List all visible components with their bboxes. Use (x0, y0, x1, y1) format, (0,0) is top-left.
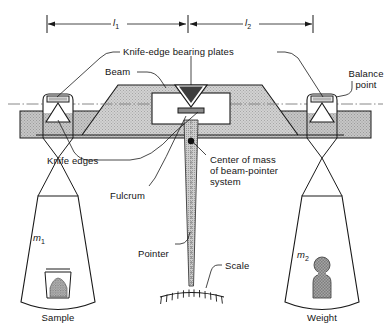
label-knife-edges: Knife edges (47, 155, 98, 166)
dim-arrow-l2-left (190, 22, 197, 27)
right-pan-group (285, 138, 359, 310)
label-balance-point-line1: Balance (344, 68, 388, 79)
fulcrum-bearing-plate (178, 108, 204, 113)
scale-group (160, 289, 224, 304)
dimension-label-l2: l2 (245, 17, 251, 32)
label-scale: Scale (225, 260, 249, 271)
dimension-label-l1: l1 (113, 17, 119, 32)
label-center-of-mass-line2: of beam-pointer (210, 165, 278, 176)
label-sample: Sample (28, 312, 88, 323)
dimension-line-group (47, 15, 313, 33)
label-pointer: Pointer (138, 248, 169, 259)
right-bearing-plate-inner (313, 98, 331, 101)
scale-ticks (161, 289, 223, 304)
label-beam: Beam (105, 66, 130, 77)
label-mass-right: m2 (297, 249, 309, 264)
label-balance-point-line2: point (344, 79, 388, 90)
label-weight: Weight (292, 312, 352, 323)
label-knife-edge-bearing-plates: Knife-edge bearing plates (123, 46, 234, 57)
right-hanger-spread (302, 158, 342, 196)
left-bearing-plate-inner (49, 98, 67, 101)
dim-arrow-l1-left (48, 22, 55, 27)
dim-arrow-l2-right (305, 22, 312, 27)
weight-neck (318, 270, 326, 277)
leader-bearing-plates-right (277, 52, 323, 97)
balance-diagram-figure: l1 l2 Knife-edge bearing plates Beam Bal… (0, 0, 391, 336)
label-mass-left: m1 (33, 232, 45, 247)
weight-body (313, 275, 331, 298)
label-fulcrum: Fulcrum (110, 190, 145, 201)
label-center-of-mass-line1: Center of mass (210, 154, 276, 165)
scale-arc (160, 293, 224, 298)
label-center-of-mass-line3: system (210, 176, 241, 187)
leader-scale (206, 265, 222, 288)
right-hanger-v (307, 138, 337, 158)
dim-arrow-l1-right (179, 22, 186, 27)
